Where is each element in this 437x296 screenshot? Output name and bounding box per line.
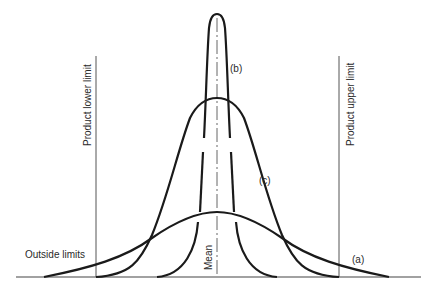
curve-b-label: (b) — [230, 63, 242, 74]
lower-limit-label: Product lower limit — [82, 64, 93, 146]
upper-limit-label: Product upper limit — [345, 63, 356, 146]
outside-limits-label: Outside limits — [25, 249, 85, 260]
curve-c-label: (c) — [259, 175, 271, 186]
mean-label: Mean — [203, 245, 214, 270]
curve-a-label: (a) — [352, 254, 364, 265]
curve-b-left-mid — [200, 152, 203, 212]
curve-b-right-mid — [231, 152, 234, 212]
